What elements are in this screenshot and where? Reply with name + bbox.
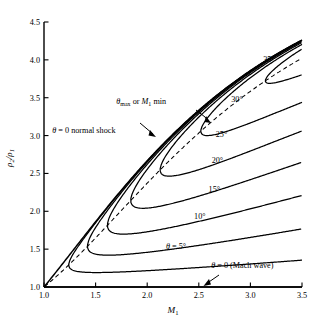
chart-figure: 1.01.52.02.53.03.51.01.52.02.53.03.54.04…	[0, 0, 319, 328]
normal-shock-annotation: θ = 0 normal shock	[52, 126, 116, 135]
x-tick-label: 1.0	[39, 291, 49, 300]
curve-label-25deg: 25°	[216, 130, 227, 139]
curve-label-35deg: 35°	[263, 55, 274, 64]
curve-label-20deg: 20°	[212, 156, 223, 165]
curve-label-30deg: 30°	[231, 95, 242, 104]
theta-5-label: θ = 5°	[166, 242, 186, 251]
x-tick-label: 3.5	[297, 291, 307, 300]
y-tick-label: 4.5	[30, 18, 40, 27]
x-tick-label: 2.5	[194, 291, 204, 300]
x-tick-label: 1.5	[90, 291, 100, 300]
y-tick-label: 3.5	[30, 94, 40, 103]
y-tick-label: 1.0	[30, 283, 40, 292]
chart-background	[0, 0, 319, 328]
y-tick-label: 4.0	[30, 56, 40, 65]
y-tick-label: 1.5	[30, 245, 40, 254]
oblique-shock-density-ratio-chart: 1.01.52.02.53.03.51.01.52.02.53.03.54.04…	[0, 0, 319, 328]
y-tick-label: 2.5	[30, 169, 40, 178]
curve-label-15deg: 15°	[209, 185, 220, 194]
curve-label-10deg: 10°	[194, 212, 205, 221]
y-tick-label: 2.0	[30, 207, 40, 216]
x-tick-label: 3.0	[245, 291, 255, 300]
y-tick-label: 3.0	[30, 132, 40, 141]
x-tick-label: 2.0	[142, 291, 152, 300]
mach-wave-label: θ = 0 (Mach wave)	[211, 261, 274, 270]
